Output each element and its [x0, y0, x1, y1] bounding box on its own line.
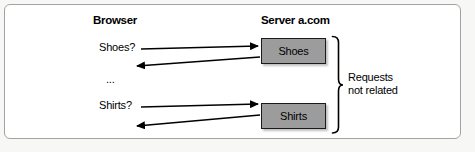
shirts-request-label: Shirts?	[99, 99, 132, 111]
shirts-server-box: Shirts	[261, 103, 326, 129]
browser-heading: Browser	[93, 14, 137, 26]
sequence-diagram: Browser Server a.com Shoes? ... Shirts? …	[0, 0, 475, 152]
shoes-server-box: Shoes	[261, 38, 326, 64]
ellipsis-label: ...	[106, 73, 115, 85]
requests-not-related-annotation: Requests not related	[348, 71, 398, 97]
server-heading: Server a.com	[261, 14, 330, 26]
annotation-line-2: not related	[348, 84, 398, 97]
shoes-request-label: Shoes?	[99, 41, 135, 53]
annotation-line-1: Requests	[348, 71, 398, 84]
